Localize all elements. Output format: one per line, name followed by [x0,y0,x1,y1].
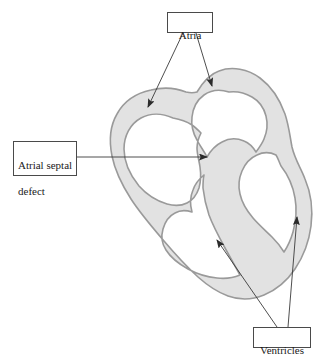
label-box-atria: Atria [167,12,213,33]
label-asd-line2: defect [18,185,73,198]
label-box-atrial-septal-defect: Atrial septal defect [13,141,77,176]
label-asd-line1: Atrial septal [18,159,73,172]
label-ventricles-text: Ventricles [256,344,308,357]
heart-outer-wall-path [110,69,311,299]
heart-wall-group [110,69,311,299]
label-atria-text: Atria [170,29,210,42]
label-box-ventricles: Ventricles [253,327,311,348]
